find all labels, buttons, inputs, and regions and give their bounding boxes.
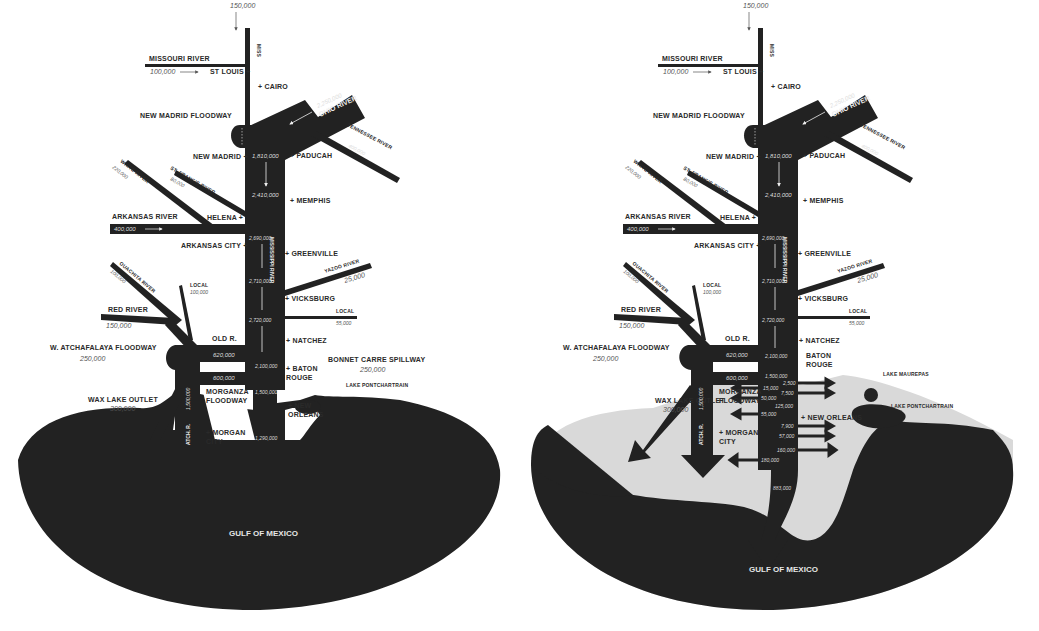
city-baton-rouge: BATON <box>806 352 831 359</box>
new-madrid-floodway-label: NEW MADRID FLOODWAY <box>653 112 745 119</box>
mississippi-main-channel <box>245 140 285 390</box>
crevasse-flow: 160,000 <box>777 447 795 453</box>
crevasse-flow: 7,900 <box>781 423 794 429</box>
lake-maurepas <box>864 388 878 402</box>
flow-7: 1,500,000 <box>255 389 277 395</box>
wax-lake-label: WAX LAKE OUTLET <box>88 396 158 403</box>
w-atchafalaya-label: W. ATCHAFALAYA FLOODWAY <box>563 344 670 351</box>
city-vicksburg: + VICKSBURG <box>798 295 849 302</box>
atchafalaya-value: 1,500,000 <box>698 388 704 410</box>
flow-5: 2,720,000 <box>761 317 784 323</box>
bonnet-carre-label: BONNET CARRE SPILLWAY <box>328 356 425 363</box>
city-greenville: + GREENVILLE <box>798 250 851 257</box>
city-new-madrid: NEW MADRID + <box>706 153 761 160</box>
missouri-label: MISSOURI RIVER <box>662 55 723 62</box>
arkansas-value: 400,000 <box>114 226 136 232</box>
old-river-value: 620,000 <box>726 352 748 358</box>
local-east-label: LOCAL <box>849 308 867 314</box>
city-st-louis: ST LOUIS + <box>723 68 763 75</box>
city-cairo: + CAIRO <box>258 83 288 90</box>
flow-6: 2,100,000 <box>254 363 277 369</box>
city-morgan-city-2: CITY <box>719 438 736 445</box>
morganza-value: 600,000 <box>213 375 235 381</box>
lake-pontchartrain-label: LAKE PONTCHARTRAIN <box>346 382 408 388</box>
crevasse-flow: 50,000 <box>761 395 777 401</box>
atchafalaya-value: 1,500,000 <box>185 388 191 410</box>
old-river-label: OLD R. <box>212 335 237 342</box>
flood-maps: 150,000 MISS MISSOURI RIVER 100,000 ST L… <box>0 0 1039 631</box>
crevasse-flow: 15,000 <box>763 385 779 391</box>
city-new-orleans: + NEW <box>288 402 312 409</box>
arkansas-value: 400,000 <box>627 226 649 232</box>
morganza-label-2: FLOODWAY <box>719 397 761 404</box>
arkansas-label: ARKANSAS RIVER <box>625 213 691 220</box>
flow-6: 2,100,000 <box>764 353 787 359</box>
crevasse-flow: 2,500 <box>782 380 796 386</box>
crevasse-flow: 7,500 <box>781 390 794 396</box>
flow-8: 1,290,000 <box>255 435 277 441</box>
flow-8: 883,000 <box>773 485 791 491</box>
city-morgan-city-2: CITY <box>206 438 223 445</box>
city-new-madrid: NEW MADRID + <box>193 153 248 160</box>
flow-7: 1,500,000 <box>765 373 787 379</box>
city-new-orleans: + NEW ORLEANS <box>801 414 862 421</box>
mississippi-label: MISSISSIPPI RIVER <box>782 237 788 284</box>
gulf-of-mexico-shape <box>18 390 500 610</box>
crevasse-flow: 125,000 <box>775 403 793 409</box>
flow-2: 2,410,000 <box>764 192 792 198</box>
city-morgan-city: + MORGAN <box>206 429 246 436</box>
arkansas-label: ARKANSAS RIVER <box>112 213 178 220</box>
red-river-label: RED RIVER <box>621 306 661 313</box>
flow-3: 2,690,000 <box>761 235 784 241</box>
city-helena: HELENA + <box>720 214 756 221</box>
missouri-value: 100,000 <box>663 68 688 75</box>
city-natchez: + NATCHEZ <box>799 337 840 344</box>
wax-lake-label: WAX LAKE OUTLET <box>655 397 725 404</box>
map-left: 150,000 MISS MISSOURI RIVER 100,000 ST L… <box>18 2 500 610</box>
local-west-label: LOCAL <box>190 282 208 288</box>
city-morgan-city: + MORGAN <box>719 429 759 436</box>
lake-pontchartrain-label: LAKE PONTCHARTRAIN <box>891 403 953 409</box>
crevasse-flow: 180,000 <box>761 457 779 463</box>
morganza-label: MORGANZA <box>206 388 249 395</box>
local-east-value: 55,000 <box>849 320 865 326</box>
city-arkansas-city: ARKANSAS CITY + <box>694 242 760 249</box>
w-atchafalaya-label: W. ATCHAFALAYA FLOODWAY <box>50 344 157 351</box>
red-river-value: 150,000 <box>619 322 644 329</box>
miss-upper-value: 150,000 <box>743 2 768 9</box>
flow-4: 2,710,000 <box>761 278 784 284</box>
gulf-label: GULF OF MEXICO <box>229 529 298 538</box>
map-right: 150,000 MISS MISSOURI RIVER 100,000 ST L… <box>531 2 1013 610</box>
city-baton-rouge-2: ROUGE <box>286 374 313 381</box>
lake-maurepas-label: LAKE MAUREPAS <box>883 371 929 377</box>
old-river-value: 620,000 <box>213 352 235 358</box>
city-baton-rouge-2: ROUGE <box>806 361 833 368</box>
miss-label: MISS <box>769 44 775 57</box>
flow-2: 2,410,000 <box>251 192 279 198</box>
upper-mississippi <box>245 28 250 138</box>
local-east-value: 55,000 <box>336 320 352 326</box>
miss-label: MISS <box>256 44 262 57</box>
city-vicksburg: + VICKSBURG <box>285 295 336 302</box>
city-cairo: + CAIRO <box>771 83 801 90</box>
gulf-label: GULF OF MEXICO <box>749 565 818 574</box>
city-memphis: + MEMPHIS <box>290 197 331 204</box>
flow-1: 1,810,000 <box>765 153 792 159</box>
wax-lake-value: 300,000 <box>110 405 135 412</box>
new-madrid-floodway-label: NEW MADRID FLOODWAY <box>140 112 232 119</box>
red-river-label: RED RIVER <box>108 306 148 313</box>
flow-1: 1,810,000 <box>252 153 279 159</box>
miss-upper-value: 150,000 <box>230 2 255 9</box>
city-helena: HELENA + <box>207 214 243 221</box>
atchafalaya-label: ATCH. R. <box>698 423 704 445</box>
crevasse-flow: 55,000 <box>761 411 777 417</box>
crevasse-flow: 57,000 <box>779 433 795 439</box>
morganza-value: 600,000 <box>726 375 748 381</box>
city-paducah: + PADUCAH <box>803 152 845 159</box>
local-east-label: LOCAL <box>336 308 354 314</box>
morganza-label: MORGANZA <box>719 388 762 395</box>
atchafalaya-label: ATCH. R. <box>185 423 191 445</box>
red-river-value: 150,000 <box>106 322 131 329</box>
w-atchafalaya-value: 250,000 <box>592 355 618 362</box>
flow-3: 2,690,000 <box>248 235 271 241</box>
